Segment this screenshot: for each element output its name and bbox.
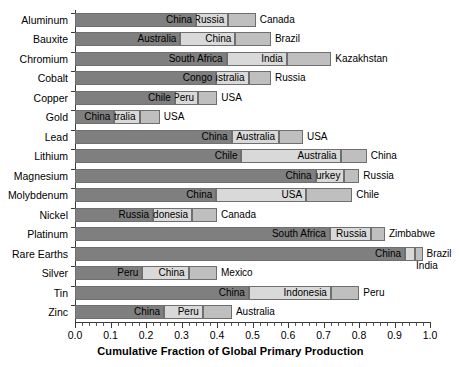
x-axis-tick-minor xyxy=(139,323,140,326)
segment-label: China xyxy=(286,171,315,181)
x-axis-tick-minor xyxy=(416,323,417,326)
x-axis-tick-minor xyxy=(174,323,175,326)
bar-segment: Russia xyxy=(196,13,228,27)
x-axis-tick-minor xyxy=(380,323,381,326)
x-axis-tick-minor xyxy=(153,323,154,326)
plot-area: AluminumChinaRussiaCanadaBauxiteAustrali… xyxy=(75,10,430,322)
bar-segment: Peru xyxy=(164,305,203,319)
segment-label: Congo xyxy=(183,73,215,83)
segment-label: China xyxy=(166,15,195,25)
bar-segment: China xyxy=(341,149,367,163)
x-axis-tick-major xyxy=(111,323,112,328)
bar-segment: Zimbabwe xyxy=(371,227,385,241)
bar-segment: China xyxy=(142,266,188,280)
bar-segment: Indonesia xyxy=(249,286,331,300)
segment-label: Russia xyxy=(119,210,153,220)
category-label: Zinc xyxy=(48,306,68,318)
bar-segment: China xyxy=(75,286,249,300)
segment-label: Russia xyxy=(358,171,394,181)
bar-segment: China xyxy=(75,305,164,319)
segment-label: Peru xyxy=(173,93,197,103)
bar-segment: India xyxy=(227,52,287,66)
segment-label: China xyxy=(186,190,215,200)
segment-label: Canada xyxy=(216,210,256,220)
segment-label: Australia xyxy=(231,307,275,317)
segment-label: India xyxy=(261,54,286,64)
x-axis-tick-minor xyxy=(302,323,303,326)
x-axis-tick-minor xyxy=(316,323,317,326)
bar-track: South AfricaIndiaKazakhstan xyxy=(75,52,430,66)
bar-segment: Brazil xyxy=(235,32,271,46)
segment-label: USA xyxy=(302,132,328,142)
category-label: Gold xyxy=(46,111,68,123)
segment-label: USA xyxy=(216,93,242,103)
x-axis-tick-label: 0.5 xyxy=(245,329,260,341)
category-label: Copper xyxy=(34,92,68,104)
bar-track: ChinaIndonesiaPeru xyxy=(75,286,430,300)
x-axis-tick-label: 0.1 xyxy=(103,329,118,341)
segment-label: USA xyxy=(159,112,185,122)
segment-label: Chile xyxy=(351,190,379,200)
bar-segment: Canada xyxy=(228,13,255,27)
bar-track: ChinaPeruAustralia xyxy=(75,305,430,319)
category-label: Chromium xyxy=(20,53,68,65)
bar-row-lithium: LithiumChileAustraliaChina xyxy=(75,149,430,163)
bar-segment: USA xyxy=(198,91,217,105)
bar-row-aluminum: AluminumChinaRussiaCanada xyxy=(75,13,430,27)
bar-segment: China xyxy=(180,32,235,46)
x-axis-tick-minor xyxy=(238,323,239,326)
segment-label: Peru xyxy=(178,307,202,317)
x-axis-tick-minor xyxy=(231,323,232,326)
bar-segment: Russia xyxy=(75,208,153,222)
bar-segment: Canada xyxy=(192,208,217,222)
segment-label: Australia xyxy=(236,132,278,142)
bar-segment: China xyxy=(75,188,216,202)
x-axis-tick-minor xyxy=(96,323,97,326)
segment-label: Chile xyxy=(148,93,174,103)
segment-label: China xyxy=(219,288,248,298)
segment-label: China xyxy=(201,132,230,142)
segment-label: India xyxy=(414,261,438,271)
bar-track: PeruChinaMexico xyxy=(75,266,430,280)
bar-row-rare-earths: Rare EarthsChinaIndiaBrazil xyxy=(75,247,430,261)
bar-row-tin: TinChinaIndonesiaPeru xyxy=(75,286,430,300)
x-axis-tick-label: 0.9 xyxy=(387,329,402,341)
bar-segment: USA xyxy=(279,130,303,144)
x-axis-tick-minor xyxy=(224,323,225,326)
x-axis-tick-minor xyxy=(366,323,367,326)
bar-segment: Congo xyxy=(75,71,216,85)
bar-segment: Peru xyxy=(331,286,359,300)
x-axis-tick-minor xyxy=(189,323,190,326)
bar-track: ChinaTurkeyRussia xyxy=(75,169,430,183)
bar-segment: South Africa xyxy=(75,52,227,66)
category-label: Lead xyxy=(45,131,68,143)
x-axis-tick-minor xyxy=(338,323,339,326)
bar-segment: Russia xyxy=(330,227,371,241)
x-axis-tick-minor xyxy=(274,323,275,326)
category-label: Magnesium xyxy=(14,170,68,182)
segment-label: Mexico xyxy=(216,268,253,278)
bar-segment: China xyxy=(75,130,232,144)
segment-label: China xyxy=(158,268,187,278)
bar-segment: Australia xyxy=(232,130,280,144)
bar-segment: Indonesia xyxy=(153,208,192,222)
x-axis-tick-major xyxy=(253,323,254,328)
bar-segment: China xyxy=(75,110,114,124)
bar-segment: Kazakhstan xyxy=(287,52,331,66)
x-axis-tick-minor xyxy=(309,323,310,326)
x-axis-tick-minor xyxy=(167,323,168,326)
segment-label: Canada xyxy=(255,15,295,25)
bar-segment: China xyxy=(75,247,405,261)
bar-row-nickel: NickelRussiaIndonesiaCanada xyxy=(75,208,430,222)
bar-row-zinc: ZincChinaPeruAustralia xyxy=(75,305,430,319)
segment-label: Peru xyxy=(358,288,384,298)
stacked-bar-chart: AluminumChinaRussiaCanadaBauxiteAustrali… xyxy=(0,0,461,367)
x-axis-tick-minor xyxy=(132,323,133,326)
segment-label: China xyxy=(84,112,113,122)
bar-row-silver: SilverPeruChinaMexico xyxy=(75,266,430,280)
x-axis-tick-label: 0.2 xyxy=(139,329,154,341)
x-axis-tick-minor xyxy=(196,323,197,326)
category-label: Rare Earths xyxy=(12,248,68,260)
x-axis-tick-label: 0.0 xyxy=(68,329,83,341)
segment-label: Australia xyxy=(298,151,340,161)
